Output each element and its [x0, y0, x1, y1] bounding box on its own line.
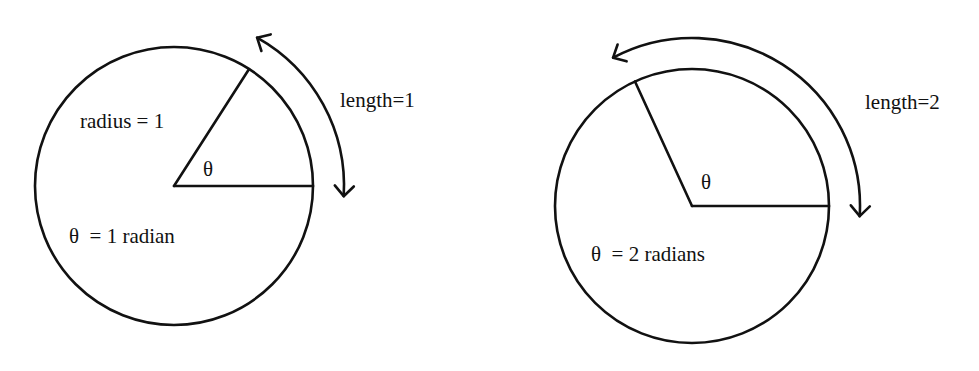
radian-diagram: radius = 1 θ length=1 θ = 1 radian θ len…	[0, 0, 979, 371]
theta-label: θ	[203, 157, 213, 181]
panel-two-radians: θ length=2 θ = 2 radians	[555, 38, 940, 343]
arc-length-arrow	[257, 38, 344, 197]
radius-line-angled	[635, 81, 692, 206]
equation-label: θ = 2 radians	[591, 242, 705, 266]
arc-length-label: length=2	[865, 90, 940, 114]
radius-label: radius = 1	[80, 109, 164, 133]
equation-label: θ = 1 radian	[69, 224, 175, 248]
arc-length-arrow	[613, 38, 860, 216]
arc-length-label: length=1	[340, 88, 415, 112]
panel-one-radian: radius = 1 θ length=1 θ = 1 radian	[35, 34, 415, 325]
theta-label: θ	[701, 170, 711, 194]
